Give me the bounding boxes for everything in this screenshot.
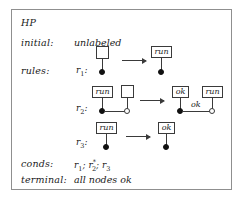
conds-sep2: ;: [96, 160, 99, 170]
rule-name-r2: r2:: [76, 103, 88, 116]
r2-lhs-node1-label: run: [92, 86, 113, 98]
conds-sep1: ;: [82, 160, 85, 170]
r2-lhs-node2-marker-hollow: [124, 108, 130, 114]
rule-name-r3: r3:: [76, 137, 88, 150]
conds-r3-sub: 3: [106, 165, 110, 173]
r1-lhs-node-label-empty: [96, 46, 109, 59]
conds-value: r1; r*2; r3: [74, 158, 110, 173]
rule-name-r3-subscript: 3: [80, 142, 84, 150]
rules-label: rules:: [21, 65, 50, 76]
rule-name-r1-subscript: 1: [80, 70, 84, 78]
r2-arrow: [140, 100, 164, 101]
r2-lhs-node2-label-empty: [121, 85, 134, 98]
r1-arrow: [122, 60, 146, 61]
terminal-value: all nodes ok: [74, 174, 132, 185]
r2-rhs-edge-label: ok: [190, 100, 202, 109]
r2-rhs-node1-label: ok: [172, 86, 189, 98]
page-title: HP: [21, 17, 36, 28]
rule-name-r2-subscript: 2: [80, 108, 84, 116]
r2-rhs-node2-label: run: [202, 86, 223, 98]
r1-rhs-node-label: run: [151, 46, 172, 58]
r3-arrow: [126, 136, 150, 137]
spec-box: HP initial: unlabeled rules: r1: run r2:…: [11, 9, 232, 190]
r3-lhs-node-marker-filled: [103, 144, 109, 150]
r1-lhs-node-marker-filled: [99, 69, 105, 75]
r2-rhs-node2-marker-hollow: [209, 108, 215, 114]
terminal-label: terminal:: [21, 174, 67, 185]
r3-rhs-node-label: ok: [158, 122, 175, 134]
r3-lhs-node-label: run: [96, 122, 117, 134]
rule-name-r1: r1:: [76, 65, 88, 78]
initial-label: initial:: [21, 37, 54, 48]
conds-label: conds:: [21, 158, 54, 169]
r1-rhs-node-marker-filled: [158, 69, 164, 75]
r3-rhs-node-marker-filled: [163, 144, 169, 150]
